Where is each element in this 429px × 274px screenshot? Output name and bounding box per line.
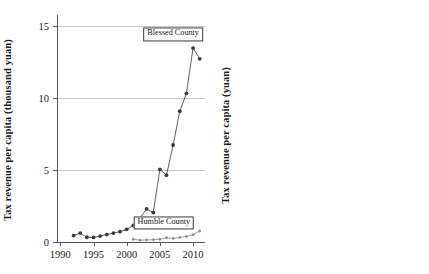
chart-panel-right: Tax revenue per capita (yuan) 0200400600… bbox=[215, 0, 429, 274]
data-point bbox=[112, 231, 116, 235]
x-tick-0-0 bbox=[60, 242, 61, 246]
annotation-humble-county: Humble County bbox=[134, 216, 195, 229]
data-point bbox=[171, 143, 175, 147]
annotation-blessed-county: Blessed County bbox=[143, 28, 203, 41]
y-tick-label-0-2: 10 bbox=[39, 93, 50, 104]
data-point bbox=[132, 238, 135, 241]
data-point bbox=[185, 91, 189, 95]
data-point bbox=[105, 233, 109, 237]
x-tick-label-0-1: 1995 bbox=[83, 249, 104, 260]
data-point bbox=[178, 236, 181, 239]
x-tick-0-2 bbox=[127, 242, 128, 246]
data-point bbox=[191, 233, 194, 236]
y-tick-label-0-0: 0 bbox=[44, 237, 49, 248]
series-layer-0 bbox=[57, 15, 205, 242]
data-point bbox=[138, 238, 141, 241]
y-tick-label-0-3: 15 bbox=[39, 21, 50, 32]
x-tick-0-3 bbox=[160, 242, 161, 246]
data-point bbox=[178, 109, 182, 113]
data-point bbox=[198, 229, 201, 232]
data-point bbox=[118, 230, 122, 234]
data-point bbox=[171, 237, 174, 240]
data-point bbox=[158, 238, 161, 241]
y-axis-label-right: Tax revenue per capita (yuan) bbox=[220, 32, 231, 240]
data-point bbox=[151, 211, 155, 215]
x-tick-label-0-0: 1990 bbox=[50, 249, 71, 260]
plot-area-left: 05101519901995200020052010Blessed County… bbox=[57, 15, 205, 242]
data-point bbox=[198, 57, 202, 61]
data-point bbox=[191, 46, 195, 50]
data-point bbox=[85, 235, 89, 239]
x-tick-label-0-3: 2005 bbox=[149, 249, 170, 260]
x-tick-0-1 bbox=[94, 242, 95, 246]
y-tick-label-0-1: 5 bbox=[44, 165, 49, 176]
y-axis-label-left: Tax revenue per capita (thousand yuan) bbox=[2, 14, 13, 246]
series-line-blessed-county bbox=[74, 48, 200, 237]
data-point bbox=[98, 234, 102, 238]
data-point bbox=[152, 238, 155, 241]
two-panel-line-chart-figure: Tax revenue per capita (thousand yuan) 0… bbox=[0, 0, 429, 274]
y-tick-0-0 bbox=[53, 242, 57, 243]
x-tick-0-4 bbox=[193, 242, 194, 246]
x-tick-label-0-4: 2010 bbox=[183, 249, 204, 260]
x-tick-label-0-2: 2000 bbox=[116, 249, 137, 260]
x-axis-line-0 bbox=[57, 242, 205, 243]
data-point bbox=[145, 238, 148, 241]
data-point bbox=[125, 227, 129, 231]
chart-panel-left: Tax revenue per capita (thousand yuan) 0… bbox=[0, 0, 215, 274]
data-point bbox=[158, 168, 162, 172]
data-point bbox=[92, 236, 96, 240]
data-point bbox=[72, 234, 76, 238]
data-point bbox=[165, 236, 168, 239]
data-point bbox=[78, 231, 82, 235]
data-point bbox=[165, 173, 169, 177]
data-point bbox=[145, 207, 149, 211]
data-point bbox=[185, 235, 188, 238]
